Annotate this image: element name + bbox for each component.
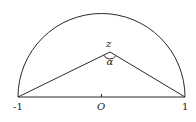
right-endpoint-label: 1 bbox=[182, 101, 188, 112]
left-endpoint-label: -1 bbox=[13, 101, 23, 112]
segment-left-to-z bbox=[18, 52, 110, 97]
angle-alpha-label: α bbox=[107, 56, 114, 67]
segment-z-to-right bbox=[110, 52, 185, 97]
origin-label: O bbox=[97, 101, 105, 112]
point-z-label: z bbox=[105, 38, 112, 49]
half-disk-diagram: z α -1 O 1 bbox=[0, 0, 196, 122]
